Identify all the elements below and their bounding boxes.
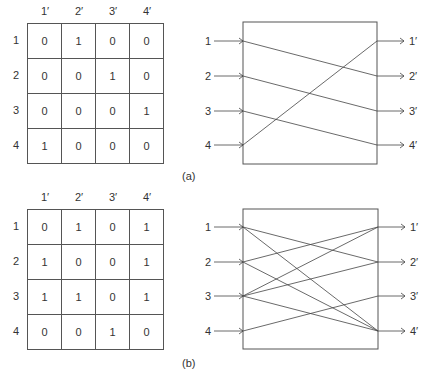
output-label: 3′ bbox=[410, 290, 418, 302]
output-label: 2′ bbox=[410, 256, 418, 268]
caption-b: (b) bbox=[182, 357, 195, 369]
network-diagram-b: 1 2 3 4 1′ 2′ 3′ 4′ bbox=[0, 0, 431, 382]
input-label: 3 bbox=[205, 290, 211, 302]
figure-b: 1′ 2′ 3′ 4′ 1 2 3 4 0 1 0 1 1 0 0 1 1 1 … bbox=[0, 0, 431, 382]
output-label: 4′ bbox=[410, 325, 418, 337]
input-label: 4 bbox=[205, 325, 211, 337]
input-label: 1 bbox=[205, 221, 211, 233]
output-label: 1′ bbox=[410, 221, 418, 233]
input-label: 2 bbox=[205, 256, 211, 268]
